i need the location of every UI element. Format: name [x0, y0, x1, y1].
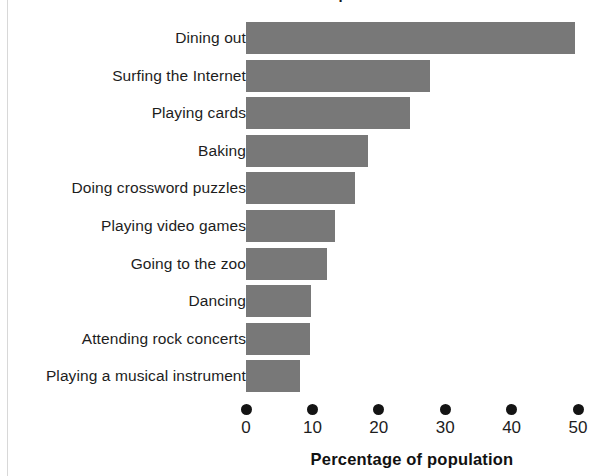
x-axis-ticks: 01020304050 [0, 404, 612, 450]
chart-page: Favourite leisure pursuits Dining outSur… [0, 0, 612, 476]
x-axis-title: Percentage of population [246, 450, 578, 469]
bar [246, 360, 300, 392]
category-label: Going to the zoo [131, 255, 246, 273]
tick-dot-icon [440, 404, 451, 415]
x-axis-tick: 30 [425, 404, 465, 436]
category-label: Dancing [188, 292, 246, 310]
x-axis-tick-label: 20 [359, 419, 399, 436]
bar [246, 97, 410, 129]
bar-row: Going to the zoo [0, 245, 612, 282]
bar-row: Surfing the Internet [0, 57, 612, 94]
bar [246, 210, 335, 242]
tick-dot-icon [506, 404, 517, 415]
bar-row: Dancing [0, 283, 612, 320]
category-label: Baking [198, 142, 246, 160]
bar [246, 285, 311, 317]
x-axis-tick-label: 0 [226, 419, 266, 436]
bar [246, 60, 430, 92]
bar-row: Dining out [0, 20, 612, 57]
bar-row: Doing crossword puzzles [0, 170, 612, 207]
category-label: Attending rock concerts [82, 330, 246, 348]
x-axis-tick-label: 30 [425, 419, 465, 436]
category-label: Doing crossword puzzles [71, 179, 246, 197]
bar [246, 135, 368, 167]
bar-row: Playing cards [0, 95, 612, 132]
category-label: Playing video games [101, 217, 246, 235]
x-axis-tick: 40 [492, 404, 532, 436]
category-label: Dining out [175, 29, 246, 47]
tick-dot-icon [373, 404, 384, 415]
bar [246, 323, 310, 355]
bar [246, 172, 355, 204]
x-axis-tick-label: 40 [492, 419, 532, 436]
bar-row: Attending rock concerts [0, 320, 612, 357]
x-axis-tick: 50 [558, 404, 598, 436]
x-axis-tick-label: 50 [558, 419, 598, 436]
x-axis-tick: 0 [226, 404, 266, 436]
category-label: Playing a musical instrument [46, 367, 246, 385]
tick-dot-icon [241, 404, 252, 415]
category-label: Surfing the Internet [112, 67, 246, 85]
tick-dot-icon [307, 404, 318, 415]
bar [246, 22, 575, 54]
x-axis-tick-label: 10 [292, 419, 332, 436]
category-label: Playing cards [152, 104, 246, 122]
x-axis-tick: 20 [359, 404, 399, 436]
tick-dot-icon [573, 404, 584, 415]
x-axis-tick: 10 [292, 404, 332, 436]
bar [246, 248, 327, 280]
bar-row: Playing a musical instrument [0, 358, 612, 395]
bar-row: Baking [0, 132, 612, 169]
bar-row: Playing video games [0, 208, 612, 245]
